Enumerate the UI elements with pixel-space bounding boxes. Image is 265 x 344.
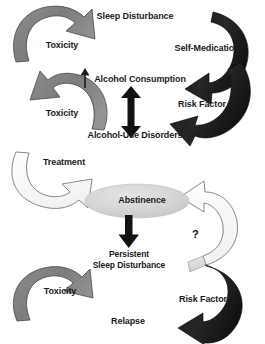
node-alcohol-consumption: Alcohol Consumption <box>94 74 186 84</box>
toxicity-arrow-top <box>14 6 95 62</box>
node-abstinence: Abstinence <box>118 195 166 205</box>
node-alcohol-use-disorders: Alcohol-Use Disorders <box>88 130 183 140</box>
edge-label-treatment: Treatment <box>43 157 85 167</box>
edge-label-risk-factor-bottom: Risk Factor <box>179 294 227 304</box>
risk-factor-arrow-bottom <box>178 265 242 344</box>
node-persistent-sleep-disturbance-line1: Persistent <box>109 250 149 260</box>
abstinence-to-persistent-arrow <box>119 215 140 248</box>
edge-label-toxicity-mid: Toxicity <box>46 108 79 118</box>
node-persistent-sleep-disturbance-line2: Sleep Disturbance <box>93 261 165 271</box>
edge-label-toxicity-top: Toxicity <box>46 40 79 50</box>
question-arrow-tail <box>188 256 206 272</box>
edge-label-question-mark: ? <box>192 228 199 240</box>
question-arrow <box>180 181 238 265</box>
diagram-canvas: Sleep Disturbance Alcohol Consumption Al… <box>0 0 265 344</box>
node-relapse: Relapse <box>111 316 145 326</box>
edge-label-toxicity-bottom: Toxicity <box>44 286 77 296</box>
node-sleep-disturbance: Sleep Disturbance <box>97 11 174 21</box>
edge-label-risk-factor-top: Risk Factor <box>178 99 226 109</box>
edge-label-self-medication: Self-Medication <box>174 43 239 53</box>
